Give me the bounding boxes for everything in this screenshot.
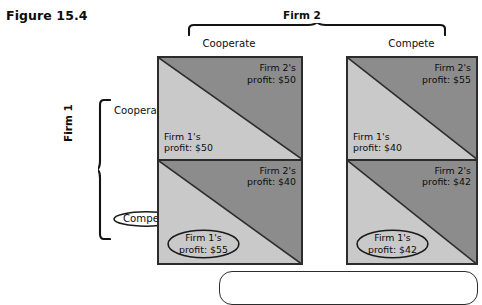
firm2-payoff: Firm 2's profit: $42 — [422, 165, 471, 188]
firm1-payoff-value: profit: $50 — [164, 142, 213, 154]
firm2-payoff: Firm 2's profit: $50 — [247, 62, 296, 85]
payoff-cell-compete-cooperate: Firm 2's profit: $40 Firm 1's profit: $5… — [159, 161, 301, 264]
payoff-cell-compete-compete: Firm 2's profit: $42 Firm 1's profit: $4… — [348, 161, 476, 264]
payoff-block-cooperate-column: Firm 2's profit: $50 Firm 1's profit: $5… — [157, 56, 303, 265]
firm1-payoff-party: Firm 1's — [353, 131, 402, 143]
firm1-payoff: Firm 1's profit: $50 — [164, 131, 213, 154]
row-axis-title: Firm 1 — [62, 104, 74, 142]
payoff-block-compete-column: Firm 2's profit: $55 Firm 1's profit: $4… — [346, 56, 478, 265]
firm1-payoff-party: Firm 1's — [179, 232, 228, 244]
firm1-payoff-value: profit: $40 — [353, 142, 402, 154]
firm2-payoff: Firm 2's profit: $40 — [247, 165, 296, 188]
firm2-payoff-party: Firm 2's — [247, 165, 296, 177]
firm1-payoff-party: Firm 1's — [164, 131, 213, 143]
firm1-payoff: Firm 1's profit: $40 — [353, 131, 402, 154]
payoff-cell-cooperate-compete: Firm 2's profit: $55 Firm 1's profit: $4… — [348, 58, 476, 161]
firm2-payoff-party: Firm 2's — [422, 62, 471, 74]
figure-label: Figure 15.4 — [6, 8, 88, 23]
firm2-payoff-party: Firm 2's — [247, 62, 296, 74]
row-axis-brace — [98, 99, 111, 240]
brace-horizontal-icon — [188, 23, 446, 36]
bottom-callout — [219, 271, 478, 305]
firm1-payoff-value: profit: $55 — [179, 244, 228, 256]
firm2-payoff-value: profit: $50 — [247, 74, 296, 86]
firm2-payoff: Firm 2's profit: $55 — [422, 62, 471, 85]
column-header-compete: Compete — [345, 38, 478, 49]
brace-vertical-icon — [98, 99, 111, 240]
firm1-payoff-highlighted: Firm 1's profit: $55 — [167, 229, 240, 259]
firm2-payoff-value: profit: $42 — [422, 176, 471, 188]
firm2-payoff-value: profit: $40 — [247, 176, 296, 188]
column-axis-title: Firm 2 — [283, 9, 321, 21]
firm2-payoff-value: profit: $55 — [422, 74, 471, 86]
column-header-cooperate: Cooperate — [155, 38, 303, 49]
firm1-payoff-party: Firm 1's — [368, 232, 417, 244]
firm2-payoff-party: Firm 2's — [422, 165, 471, 177]
firm1-payoff-highlighted: Firm 1's profit: $42 — [356, 229, 429, 259]
payoff-cell-cooperate-cooperate: Firm 2's profit: $50 Firm 1's profit: $5… — [159, 58, 301, 161]
firm1-payoff-value: profit: $42 — [368, 244, 417, 256]
column-axis-brace — [188, 21, 446, 34]
